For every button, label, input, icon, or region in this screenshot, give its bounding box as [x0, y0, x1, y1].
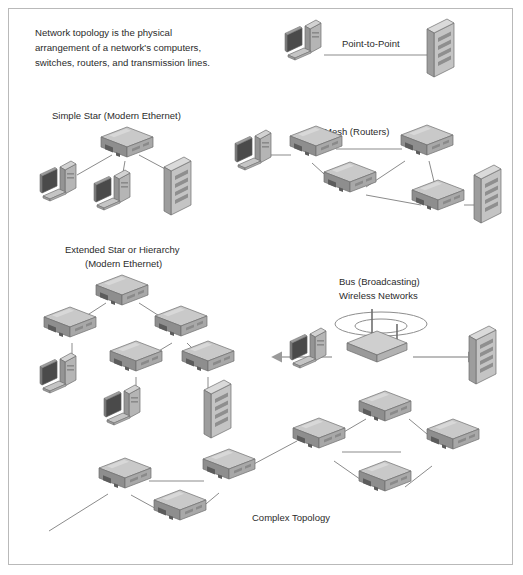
node-switch-ext-right[interactable] [155, 306, 207, 336]
node-computer-ext-1[interactable] [40, 353, 76, 393]
radio-wave-inner-icon [355, 319, 407, 333]
node-router-cx-3[interactable] [203, 449, 255, 479]
node-server-bus[interactable] [469, 326, 496, 384]
node-router-cx-7[interactable] [359, 461, 411, 491]
intro-line-1: Network topology is the physical [35, 27, 172, 38]
node-router-cx-2[interactable] [154, 490, 206, 520]
node-computer-mesh[interactable] [235, 130, 271, 170]
intro-line-2: arrangement of a network's computers, [35, 42, 201, 53]
label-extended-star-1: Extended Star or Hierarchy [65, 244, 180, 255]
link-cx-tail [49, 494, 108, 531]
node-server-star[interactable] [164, 157, 191, 215]
figure-frame: Network topology is the physical arrange… [8, 8, 513, 565]
section-extended-star: Extended Star or Hierarchy (Modern Ether… [40, 244, 234, 438]
node-computer-p2p[interactable] [285, 20, 321, 60]
link-star-1 [77, 155, 112, 175]
node-router-cx-6[interactable] [427, 419, 479, 449]
node-switch-ext-c1[interactable] [110, 341, 162, 371]
node-server-mesh[interactable] [474, 165, 501, 223]
node-computer-star-2[interactable] [94, 170, 130, 210]
label-point-to-point: Point-to-Point [342, 38, 400, 49]
node-router-mesh-2[interactable] [401, 125, 453, 155]
node-server-p2p[interactable] [427, 19, 454, 77]
label-bus-2: Wireless Networks [339, 290, 418, 301]
intro-line-3: switches, routers, and transmission line… [35, 57, 210, 68]
label-complex-topology: Complex Topology [252, 512, 330, 523]
node-router-cx-4[interactable] [293, 418, 345, 448]
node-switch-star[interactable] [101, 127, 153, 157]
label-extended-star-2: (Modern Ethernet) [85, 258, 162, 269]
node-router-cx-5[interactable] [359, 391, 411, 421]
node-switch-ext-left[interactable] [44, 307, 96, 337]
label-bus-1: Bus (Broadcasting) [339, 276, 420, 287]
section-bus-wireless: Bus (Broadcasting) Wireless Networks [281, 276, 496, 384]
section-simple-star: Simple Star (Modern Ethernet) [40, 110, 191, 215]
network-topology-diagram: Network topology is the physical arrange… [9, 9, 514, 566]
label-simple-star: Simple Star (Modern Ethernet) [52, 110, 181, 121]
node-computer-bus[interactable] [290, 328, 326, 368]
node-router-cx-1[interactable] [99, 458, 151, 488]
section-mesh: Mesh (Routers) [235, 125, 501, 223]
section-point-to-point: Point-to-Point [285, 19, 454, 77]
intro-text: Network topology is the physical arrange… [35, 27, 210, 68]
node-computer-star-1[interactable] [40, 161, 76, 201]
node-computer-ext-2[interactable] [104, 385, 140, 425]
node-router-mesh-3[interactable] [324, 162, 376, 192]
node-switch-ext-root[interactable] [96, 275, 148, 305]
node-server-ext[interactable] [204, 380, 231, 438]
node-router-mesh-4[interactable] [412, 180, 464, 210]
link-star-3 [139, 155, 167, 170]
